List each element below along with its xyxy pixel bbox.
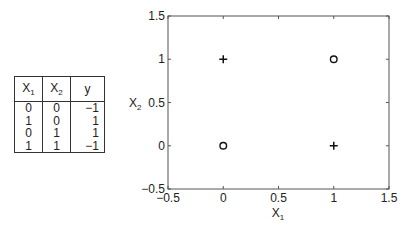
y-axis-label: X2: [129, 96, 142, 112]
x-tick-label: 1.5: [381, 191, 398, 205]
plus-marker: [330, 142, 338, 150]
circle-marker: [330, 56, 337, 63]
x-tick-label: 1: [330, 191, 337, 205]
circle-marker: [220, 142, 227, 149]
y-tick-label: 0: [158, 139, 165, 153]
x-tick-label: 0: [220, 191, 227, 205]
x-axis-label: X1: [272, 206, 285, 222]
y-tick-label: 1.5: [148, 9, 165, 23]
plus-marker: [219, 55, 227, 63]
plot-area: [168, 16, 389, 189]
y-tick-label: 0.5: [148, 96, 165, 110]
scatter-chart: −0.500.511.5−0.500.511.5 X1 X2: [0, 0, 417, 233]
y-tick-label: 1: [158, 52, 165, 66]
x-tick-label: 0.5: [270, 191, 287, 205]
y-tick-label: −0.5: [141, 182, 165, 196]
